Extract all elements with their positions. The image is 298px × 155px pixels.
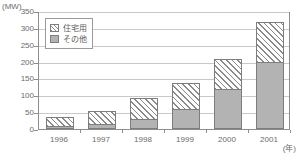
y-axis-tick-label: 0 <box>6 126 34 134</box>
legend-item-residential: 住宅用 <box>50 23 87 33</box>
gray-swatch-icon <box>50 35 59 43</box>
x-axis-tick-label: 1999 <box>165 135 205 144</box>
bar-segment-residential <box>256 22 284 62</box>
bar-segment-residential <box>130 98 158 120</box>
y-axis-tick-label: 100 <box>6 92 34 100</box>
gridline <box>39 113 289 114</box>
x-axis-tick-label: 2000 <box>207 135 247 144</box>
y-axis-tick-label: 200 <box>6 59 34 67</box>
x-axis-tick <box>80 130 81 133</box>
bar-group <box>214 11 242 129</box>
x-axis-tick <box>164 130 165 133</box>
hatched-swatch-icon <box>50 24 59 32</box>
bar-segment-other <box>172 109 200 129</box>
bar-segment-other <box>214 89 242 129</box>
bar-segment-residential <box>172 83 200 110</box>
legend: 住宅用 その他 <box>45 18 93 49</box>
bar-group <box>172 11 200 129</box>
y-axis-tick-label: 350 <box>6 8 34 16</box>
x-axis-tick-label: 2001 <box>249 135 289 144</box>
x-axis-tick-label: 1996 <box>39 135 79 144</box>
y-axis-tick-label: 250 <box>6 42 34 50</box>
y-axis-tick-label: 150 <box>6 75 34 83</box>
y-axis-tick-label: 300 <box>6 25 34 33</box>
bar-group <box>130 11 158 129</box>
bar-segment-other <box>256 62 284 129</box>
plot-area: 住宅用 その他 <box>38 12 290 130</box>
gridline <box>39 12 289 13</box>
x-axis-tick <box>290 130 291 133</box>
legend-item-other: その他 <box>50 34 87 44</box>
x-axis: 199619971998199920002001 <box>38 130 290 152</box>
x-axis-tick <box>206 130 207 133</box>
gridline <box>39 96 289 97</box>
stacked-bar-chart: (MW) (年) 050100150200250300350 住宅用 その他 1… <box>0 0 298 155</box>
x-axis-tick <box>122 130 123 133</box>
legend-label-residential: 住宅用 <box>63 24 87 33</box>
legend-label-other: その他 <box>63 35 87 44</box>
bar-segment-residential <box>88 111 116 124</box>
y-axis-tick-label: 50 <box>6 109 34 117</box>
x-axis-tick <box>248 130 249 133</box>
x-axis-tick-label: 1998 <box>123 135 163 144</box>
bar-segment-residential <box>46 117 74 128</box>
bar-group <box>256 11 284 129</box>
gridline <box>39 79 289 80</box>
x-axis-tick-label: 1997 <box>81 135 121 144</box>
gridline <box>39 63 289 64</box>
bar-segment-other <box>130 119 158 129</box>
bar-segment-residential <box>214 59 242 89</box>
